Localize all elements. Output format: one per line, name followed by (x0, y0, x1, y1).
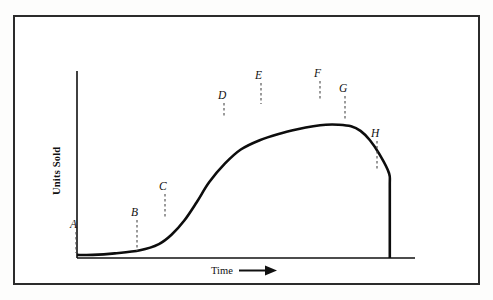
point-label-h: H (370, 127, 380, 139)
point-label-d: D (217, 89, 227, 101)
point-label-b: B (131, 206, 138, 218)
annotation-point-labels: ABCDEFGH (69, 67, 380, 230)
point-label-e: E (254, 69, 262, 81)
annotation-leader-lines (76, 81, 377, 253)
x-axis-title: Time (211, 265, 233, 276)
y-axis-title: Units Sold (51, 147, 62, 195)
point-label-f: F (313, 67, 322, 79)
figure-root: ABCDEFGH Units Sold Time (0, 0, 493, 300)
point-label-c: C (159, 180, 167, 192)
time-direction-arrow-icon (239, 266, 277, 276)
line-chart-canvas: ABCDEFGH Units Sold Time (15, 17, 478, 283)
point-label-g: G (339, 82, 348, 94)
units-sold-curve (77, 125, 390, 258)
figure-border-frame: ABCDEFGH Units Sold Time (13, 15, 480, 285)
point-label-a: A (69, 218, 78, 230)
